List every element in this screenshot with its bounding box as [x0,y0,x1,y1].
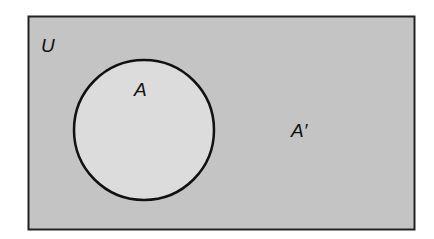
complement-label: A′ [290,120,309,141]
venn-diagram: U A A′ [0,0,434,239]
set-a-label: A [133,79,147,100]
universe-label: U [41,35,55,56]
